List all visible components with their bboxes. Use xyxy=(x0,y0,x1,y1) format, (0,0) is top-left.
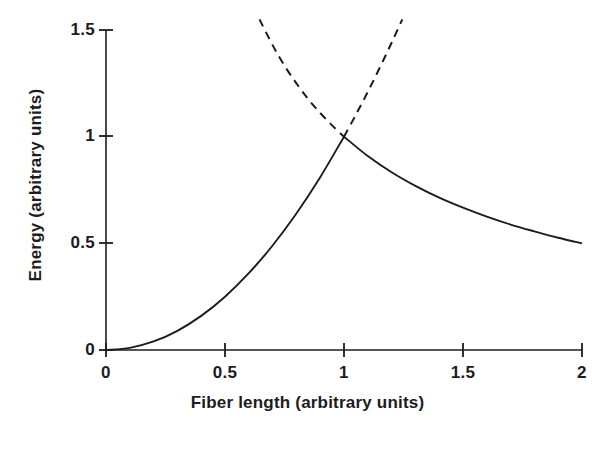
y-tick-1.5: 1.5 xyxy=(33,20,95,40)
y-axis-title: Energy (arbitrary units) xyxy=(26,89,45,282)
x-tick-label: 2 xyxy=(577,363,587,382)
data-curves xyxy=(106,19,582,350)
y-tick-label: 0 xyxy=(85,340,95,360)
y-tick-label: 0.5 xyxy=(70,233,95,253)
x-tick-1: 1 xyxy=(314,363,374,385)
x-tick-0.5: 0.5 xyxy=(195,363,255,385)
x-axis-title: Fiber length (arbitrary units) xyxy=(0,393,615,413)
series-path-2 xyxy=(344,19,402,136)
x-tick-0: 0 xyxy=(76,363,136,385)
y-tick-label: 1.5 xyxy=(70,20,95,40)
series-path-0 xyxy=(106,137,344,350)
x-tick-2: 2 xyxy=(552,363,612,385)
y-tick-0: 0 xyxy=(33,340,95,360)
series-path-3 xyxy=(260,19,344,136)
x-tick-label: 0 xyxy=(101,363,111,382)
y-tick-label: 1 xyxy=(85,126,95,146)
x-tick-1.5: 1.5 xyxy=(433,363,493,385)
figure-canvas: 1.5 1 0.5 0 0 0.5 1 1.5 2 Fiber length (… xyxy=(0,0,615,449)
x-tick-label: 0.5 xyxy=(213,363,238,382)
series-path-1 xyxy=(344,137,582,244)
x-tick-label: 1 xyxy=(339,363,349,382)
x-tick-label: 1.5 xyxy=(451,363,476,382)
y-axis-title-holder: Energy (arbitrary units) xyxy=(26,55,50,315)
